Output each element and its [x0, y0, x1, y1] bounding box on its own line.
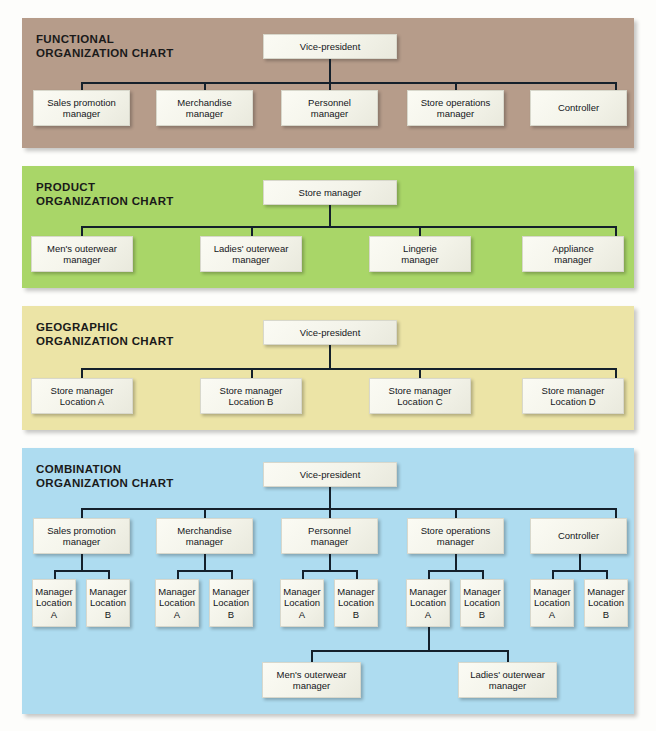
panel-product-organization-chart: PRODUCT ORGANIZATION CHART Store manager… [22, 166, 634, 288]
connector-stem-l2-0 [81, 554, 83, 571]
node-label-line-1: Merchandise [177, 525, 231, 537]
connector-drop-1 [251, 368, 253, 378]
connector-horizontal-bus [81, 82, 615, 84]
node-label-line-2: Location [158, 597, 196, 609]
panel-title-line-2: ORGANIZATION CHART [36, 46, 174, 60]
connector-drop-l2-4a [552, 570, 554, 579]
node-manager-location-a: Manager Location A [32, 579, 76, 627]
panel-functional-organization-chart: FUNCTIONAL ORGANIZATION CHART Vice-presi… [22, 18, 634, 148]
connector-root-stem [329, 487, 331, 509]
node-label-line-1: Manager [212, 586, 250, 598]
connector-bus-l2-0 [54, 570, 109, 572]
node-manager-location-a: Manager Location A [280, 579, 324, 627]
node-manager-location-b: Manager Location B [86, 579, 130, 627]
connector-drop-l2-3a [428, 570, 430, 579]
node-label-line-3: A [409, 609, 447, 621]
node-controller: Controller [530, 518, 627, 554]
node-vice-president: Vice-president [263, 34, 397, 59]
node-ladies-outerwear-manager: Ladies' outerwear manager [458, 662, 557, 698]
node-label-line-2: manager [47, 536, 116, 548]
connector-bus-l3 [311, 650, 508, 652]
connector-root-stem [329, 59, 331, 83]
connector-drop-l2-1a [177, 570, 179, 579]
node-label-line-3: B [587, 609, 625, 621]
node-label-line-3: A [158, 609, 196, 621]
node-label-line-1: Store manager [389, 385, 452, 397]
node-label-line-1: Merchandise [177, 97, 231, 109]
connector-bus-l2-3 [428, 570, 483, 572]
node-label-line-3: A [35, 609, 73, 621]
node-store-operations-manager: Store operations manager [407, 518, 504, 554]
node-label-line-1: Manager [533, 586, 571, 598]
connector-drop-l2-0a [54, 570, 56, 579]
node-label-line-1: Store operations [421, 97, 491, 109]
node-label-line-1: Store operations [421, 525, 491, 537]
panel-title-line-1: GEOGRAPHIC [36, 320, 174, 334]
connector-drop-l1-1 [204, 508, 206, 518]
node-label-line-2: manager [47, 108, 116, 120]
node-merchandise-manager: Merchandise manager [156, 518, 253, 554]
node-label-line-1: Men's outerwear [277, 669, 347, 681]
node-appliance-manager: Appliance manager [522, 236, 624, 272]
panel-title-geographic: GEOGRAPHIC ORGANIZATION CHART [36, 320, 174, 348]
connector-drop-4 [615, 82, 617, 90]
node-label-line-1: Manager [409, 586, 447, 598]
node-label-line-2: manager [308, 536, 351, 548]
connector-horizontal-bus-level1 [81, 508, 615, 510]
node-label-line-2: manager [177, 108, 231, 120]
panel-geographic-organization-chart: GEOGRAPHIC ORGANIZATION CHART Vice-presi… [22, 306, 634, 430]
connector-drop-2 [419, 226, 421, 236]
node-label-line-1: Personnel [308, 97, 351, 109]
node-label-line-1: Manager [587, 586, 625, 598]
node-label-line-1: Controller [558, 530, 599, 542]
node-manager-location-a: Manager Location A [406, 579, 450, 627]
node-label-line-1: Store manager [220, 385, 283, 397]
panel-title-line-1: FUNCTIONAL [36, 32, 174, 46]
node-manager-location-b: Manager Location B [460, 579, 504, 627]
node-label-line-2: Location [212, 597, 250, 609]
node-label-line-1: Manager [158, 586, 196, 598]
node-label-line-2: Location [533, 597, 571, 609]
connector-drop-0 [81, 368, 83, 378]
connector-root-stem [329, 205, 331, 227]
node-store-manager: Store manager [263, 180, 397, 205]
node-label-line-1: Personnel [308, 525, 351, 537]
node-store-manager-location-d: Store manager Location D [522, 378, 624, 414]
node-label-line-2: manager [470, 680, 545, 692]
node-label-line-2: manager [47, 254, 117, 266]
connector-drop-l2-2b [356, 570, 358, 579]
connector-drop-0 [81, 82, 83, 90]
node-label-line-2: manager [214, 254, 289, 266]
connector-bus-l2-4 [552, 570, 607, 572]
connector-drop-l1-2 [329, 508, 331, 518]
node-label-line-1: Vice-president [300, 469, 361, 481]
connector-drop-3 [615, 368, 617, 378]
node-personnel-manager: Personnel manager [281, 518, 378, 554]
connector-drop-1 [204, 82, 206, 90]
connector-horizontal-bus [81, 226, 615, 228]
connector-drop-l1-0 [81, 508, 83, 518]
node-label-line-1: Ladies' outerwear [214, 243, 289, 255]
node-label-line-1: Manager [89, 586, 127, 598]
node-label-line-1: Manager [337, 586, 375, 598]
node-label-line-1: Controller [558, 102, 599, 114]
node-store-manager-location-a: Store manager Location A [31, 378, 133, 414]
connector-stem-l2-2 [329, 554, 331, 571]
node-label-line-2: Location [337, 597, 375, 609]
node-store-manager-location-b: Store manager Location B [200, 378, 302, 414]
node-label-line-2: Location B [220, 396, 283, 408]
connector-bus-l2-1 [177, 570, 232, 572]
panel-title-line-1: COMBINATION [36, 462, 174, 476]
node-label-line-3: B [89, 609, 127, 621]
node-label-line-2: Location [463, 597, 501, 609]
connector-drop-2 [329, 82, 331, 90]
node-label-line-2: Location [409, 597, 447, 609]
node-controller: Controller [530, 90, 627, 126]
connector-drop-l1-3 [455, 508, 457, 518]
node-label-line-2: Location [35, 597, 73, 609]
panel-title-line-2: ORGANIZATION CHART [36, 476, 174, 490]
node-label-line-2: manager [421, 108, 491, 120]
node-lingerie-manager: Lingerie manager [369, 236, 471, 272]
node-label-line-1: Store manager [299, 187, 362, 199]
node-label-line-1: Sales promotion [47, 97, 116, 109]
